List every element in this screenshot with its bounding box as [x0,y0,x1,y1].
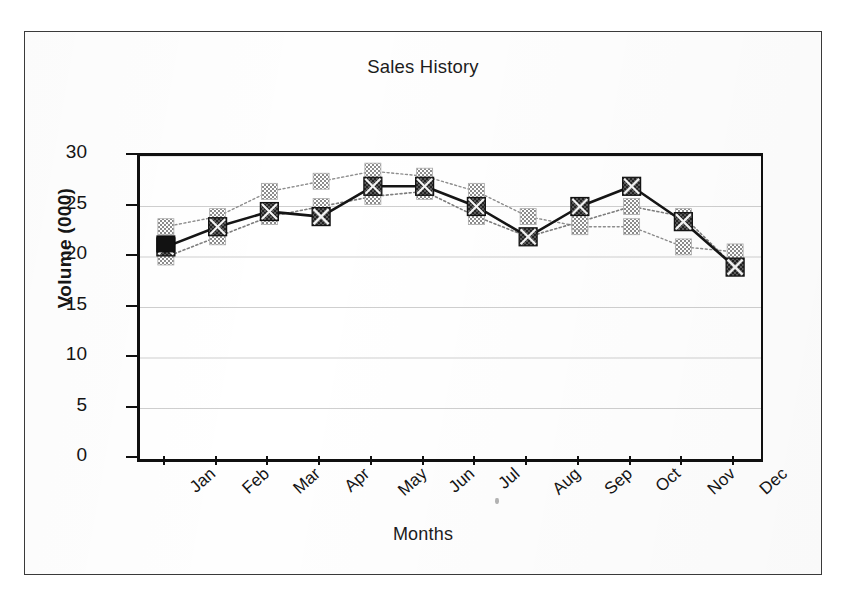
plot-canvas [140,156,761,459]
y-axis-tick-label: 20 [27,243,87,262]
y-axis-tick-label: 0 [27,445,87,464]
data-point-marker [157,236,175,252]
x-axis-tick-label: Sep [601,464,637,499]
y-axis-tick-mark [126,406,137,408]
data-point-marker [726,258,744,276]
y-axis-tick-mark [126,204,137,206]
x-axis-tick-label: Jun [445,464,479,497]
data-point-marker [674,213,692,231]
x-axis-tick-mark [266,456,268,465]
data-point-marker [364,177,382,195]
data-point-marker [209,218,227,236]
y-axis-tick-mark [126,305,137,307]
x-axis-tick-mark [422,456,424,465]
scanned-page-frame: Sales History Volume (000) Months 051015… [24,31,822,575]
y-axis-tick-label: 30 [27,142,87,161]
y-axis-tick-label: 25 [27,193,87,212]
scan-speckle-artifact [495,498,499,504]
y-axis-tick-mark [126,456,137,458]
y-axis-tick-label: 15 [27,294,87,313]
y-axis-tick-mark [126,355,137,357]
data-point-marker [624,199,640,215]
x-axis-tick-label: Dec [756,464,792,499]
x-axis-tick-mark [732,456,734,465]
series-line [166,171,735,252]
data-point-marker [624,219,640,235]
x-axis-tick-label: Jul [495,464,525,493]
data-point-marker [675,239,691,255]
x-axis-tick-label: Nov [704,464,740,499]
data-point-marker [313,173,329,189]
y-axis-tick-label: 5 [27,395,87,414]
x-axis-tick-label: Jan [186,464,220,497]
x-axis-tick-label: Aug [549,464,585,499]
x-axis-tick-mark [473,456,475,465]
x-axis-tick-mark [215,456,217,465]
series-line [166,191,735,267]
data-point-marker [261,183,277,199]
data-point-marker [158,219,174,235]
x-axis-tick-mark [525,456,527,465]
x-axis-tick-label: Feb [238,464,273,498]
x-axis-tick-label: Apr [341,464,374,497]
data-point-marker [520,209,536,225]
x-axis-tick-mark [318,456,320,465]
data-point-marker [416,177,434,195]
x-axis-tick-mark [629,456,631,465]
x-axis-tick-mark [577,456,579,465]
y-axis-tick-mark [126,254,137,256]
data-point-marker [519,228,537,246]
x-axis-tick-label: Mar [290,464,325,498]
x-axis-tick-mark [370,456,372,465]
data-point-marker [571,198,589,216]
x-axis-title: Months [25,524,821,545]
series-line [166,186,735,267]
data-point-marker [467,198,485,216]
chart-title: Sales History [25,56,821,78]
data-point-marker [312,208,330,226]
data-point-marker [623,177,641,195]
plot-area [137,153,763,462]
x-axis-tick-label: May [394,464,431,500]
y-axis-tick-label: 10 [27,344,87,363]
x-axis-tick-mark [680,456,682,465]
y-axis-tick-mark [126,153,137,155]
data-point-marker [260,203,278,221]
x-axis-tick-mark [163,456,165,465]
x-axis-tick-label: Oct [651,464,684,497]
